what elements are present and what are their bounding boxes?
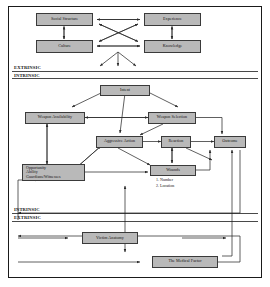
node-outcome-label: Outcome <box>221 139 238 143</box>
node-culture[interactable]: Culture <box>36 40 93 53</box>
wounds-list-item-1: 1. Number <box>156 177 173 182</box>
node-intent-label: Intent <box>119 88 131 92</box>
node-medical-factor[interactable]: The Medical Factor <box>152 256 218 268</box>
divider-label-extrinsic-upper: EXTRINSIC <box>14 65 41 70</box>
node-victim-anatomy[interactable]: Victim Anatomy <box>82 232 138 244</box>
node-reaction-label: Reaction <box>168 139 185 143</box>
node-weapon-availability-label: Weapon Availability <box>37 115 73 119</box>
node-knowledge-label: Knowledge <box>162 44 183 48</box>
node-weapon-selection[interactable]: Weapon Selection <box>148 112 196 124</box>
node-experience-label: Experience <box>162 17 183 21</box>
node-intent[interactable]: Intent <box>100 85 150 96</box>
node-social-structure[interactable]: Social Structure <box>36 13 93 26</box>
divider-label-extrinsic-lower: EXTRINSIC <box>14 215 41 220</box>
diagram-canvas: Social Structure Experience Culture Know… <box>0 0 270 287</box>
node-wounds-label: Wounds <box>165 168 181 172</box>
node-social-structure-label: Social Structure <box>50 17 79 21</box>
node-outcome[interactable]: Outcome <box>214 136 246 148</box>
node-wounds[interactable]: Wounds <box>150 165 196 176</box>
node-victim-anatomy-label: Victim Anatomy <box>95 236 125 240</box>
node-culture-label: Culture <box>57 44 72 48</box>
node-guardians-witnesses-label: Guardians/Witnesses <box>23 175 62 179</box>
divider-label-intrinsic-upper: INTRINSIC <box>14 73 40 78</box>
wounds-list-item-2: 2. Location <box>156 183 174 188</box>
node-knowledge[interactable]: Knowledge <box>144 40 201 53</box>
node-medical-factor-label: The Medical Factor <box>167 259 202 263</box>
node-reaction[interactable]: Reaction <box>161 136 191 148</box>
node-experience[interactable]: Experience <box>144 13 201 26</box>
node-aggressive-action-label: Aggressive Action <box>103 139 136 143</box>
node-aggressive-action[interactable]: Aggressive Action <box>96 136 143 148</box>
node-opportunity-ability-guardians[interactable]: Opportunity Ability Guardians/Witnesses <box>22 164 85 181</box>
node-weapon-availability[interactable]: Weapon Availability <box>25 112 85 124</box>
node-weapon-selection-label: Weapon Selection <box>156 115 188 119</box>
divider-label-intrinsic-lower: INTRINSIC <box>14 207 40 212</box>
